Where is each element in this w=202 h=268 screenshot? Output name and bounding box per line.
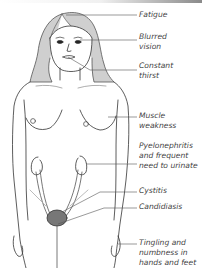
leader-cystitis bbox=[62, 192, 100, 212]
female-body-illustration bbox=[0, 0, 202, 268]
right-hand bbox=[111, 236, 120, 256]
face bbox=[50, 26, 92, 72]
left-kidney bbox=[31, 157, 42, 175]
label-candidiasis: Candidiasis bbox=[139, 202, 182, 212]
label-fatigue: Fatigue bbox=[139, 10, 167, 20]
label-tingling: Tingling and numbness in hands and feet bbox=[139, 238, 196, 268]
label-muscle-weakness: Muscle weakness bbox=[139, 111, 176, 131]
label-constant-thirst: Constant thirst bbox=[139, 61, 173, 81]
right-eye bbox=[75, 41, 81, 44]
label-blurred-vision: Blurred vision bbox=[139, 32, 167, 52]
label-pyelonephritis: Pyelonephritis and frequent need to urin… bbox=[139, 141, 198, 171]
bladder bbox=[47, 210, 67, 226]
label-cystitis: Cystitis bbox=[139, 186, 167, 196]
left-eye bbox=[57, 41, 63, 44]
right-kidney bbox=[76, 156, 87, 175]
torso-outline bbox=[13, 82, 31, 268]
